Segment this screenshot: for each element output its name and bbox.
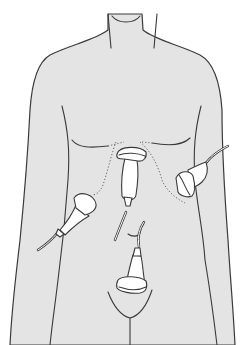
torso-illustration bbox=[0, 0, 250, 345]
torso-figure bbox=[0, 0, 250, 345]
